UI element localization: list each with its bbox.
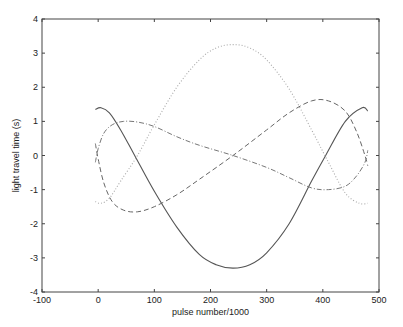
line-chart: -1000100200300400500-4-3-2-101234 pulse …: [0, 0, 403, 327]
y-tick-label: 4: [33, 14, 38, 24]
plot-area: [42, 19, 379, 292]
series-solid: [95, 107, 367, 268]
y-tick-label: 0: [33, 151, 38, 161]
series-dash-dot: [95, 121, 367, 190]
x-axis-label: pulse number/1000: [172, 307, 249, 317]
x-tick-label: 400: [315, 295, 330, 305]
y-tick-label: -4: [30, 287, 38, 297]
y-axis-label: light travel time (s): [11, 119, 21, 193]
y-tick-label: -1: [30, 185, 38, 195]
series-dotted: [95, 45, 367, 204]
series-dashed: [95, 100, 367, 213]
x-tick-label: 100: [147, 295, 162, 305]
data-series: [95, 45, 367, 269]
y-tick-label: -2: [30, 219, 38, 229]
x-tick-label: 500: [371, 295, 386, 305]
x-tick-label: 0: [96, 295, 101, 305]
y-tick-label: 3: [33, 48, 38, 58]
x-tick-label: 300: [259, 295, 274, 305]
y-tick-label: 1: [33, 116, 38, 126]
y-tick-label: -3: [30, 253, 38, 263]
y-tick-label: 2: [33, 82, 38, 92]
x-tick-label: 200: [203, 295, 218, 305]
